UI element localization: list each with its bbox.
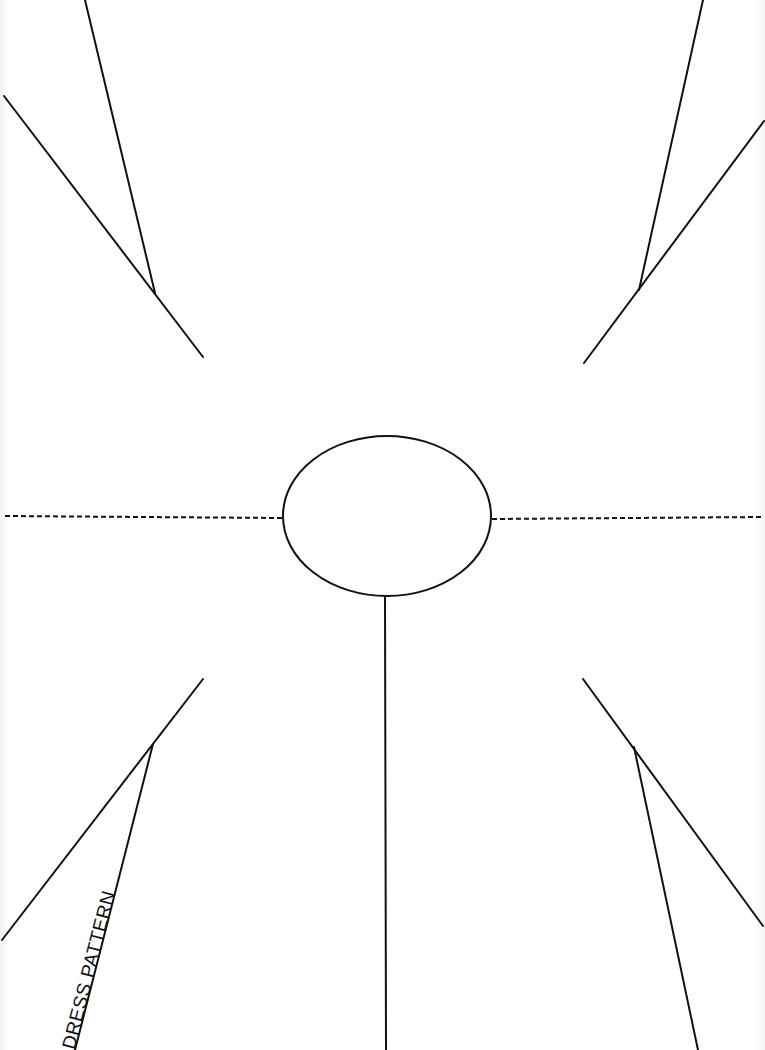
bottom-right-dart	[583, 679, 763, 1050]
top-right-outer-cut-line	[584, 121, 764, 363]
right-fold-line	[492, 517, 763, 519]
bottom-right-outer-cut-line	[583, 679, 763, 926]
top-right-dart	[584, 0, 764, 363]
top-left-outer-cut-line	[4, 96, 203, 357]
neck-hole-ellipse	[283, 436, 491, 596]
left-fold-line	[5, 516, 283, 518]
bottom-left-dart	[2, 679, 203, 1050]
top-left-dart	[4, 0, 203, 357]
center-slit-line	[385, 596, 386, 1050]
